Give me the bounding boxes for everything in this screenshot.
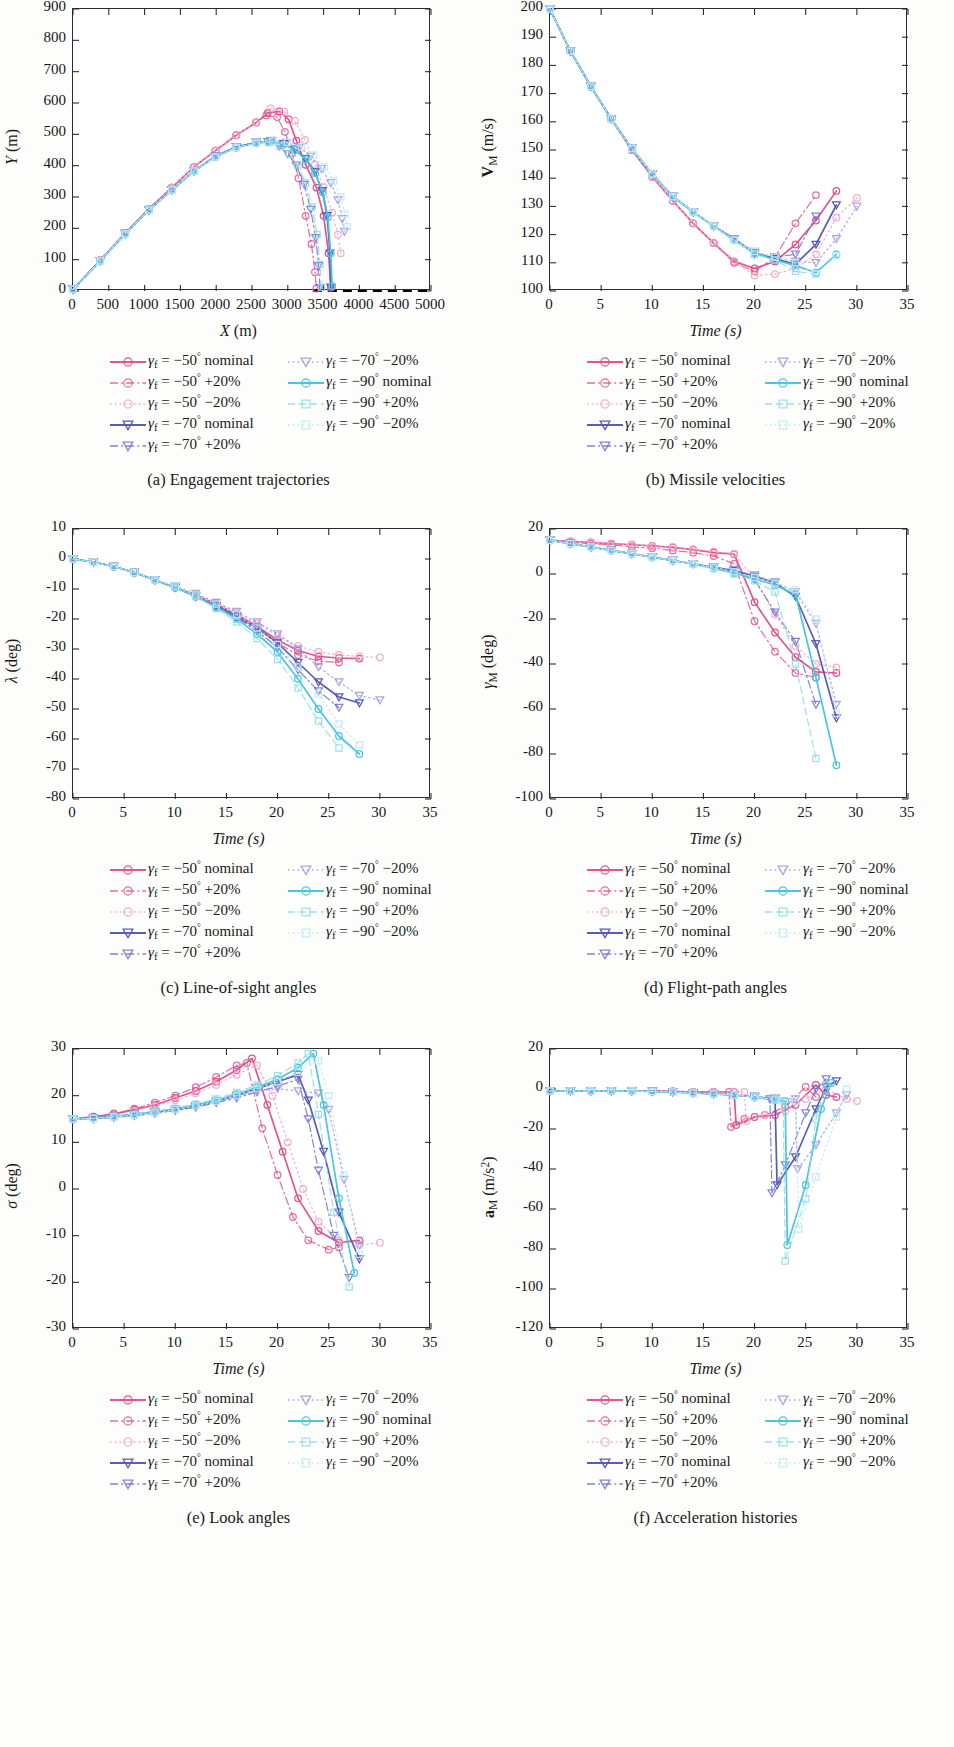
legend-marker-icon — [585, 1414, 625, 1428]
legend-item-g90_nom[interactable]: γf = −90° nominal — [763, 373, 909, 392]
legend-item-g70_m20[interactable]: γf = −70° −20% — [763, 1390, 909, 1409]
legend-item-g50_m20[interactable]: γf = −50° −20% — [108, 1432, 286, 1451]
x-tick-label: 30 — [353, 1334, 405, 1351]
legend-item-g90_p20[interactable]: γf = −90° +20% — [763, 1432, 909, 1451]
legend-item-g50_p20[interactable]: γf = −50° +20% — [585, 373, 763, 392]
y-tick-label: 160 — [495, 111, 543, 128]
legend-marker-icon — [108, 397, 148, 411]
legend-item-g50_nom[interactable]: γf = −50° nominal — [585, 1390, 763, 1409]
legend-item-g90_m20[interactable]: γf = −90° −20% — [286, 923, 432, 942]
legend-item-g90_m20[interactable]: γf = −90° −20% — [763, 1453, 909, 1472]
y-tick-label: -40 — [495, 1158, 543, 1175]
y-tick-label: 900 — [18, 0, 66, 15]
legend-item-g70_nom[interactable]: γf = −70° nominal — [108, 1453, 286, 1472]
legend-item-g90_p20[interactable]: γf = −90° +20% — [763, 394, 909, 413]
legend-marker-icon — [108, 1435, 148, 1449]
legend-item-g50_p20[interactable]: γf = −50° +20% — [585, 881, 763, 900]
y-tick-label: 10 — [18, 1131, 66, 1148]
legend-marker-icon — [585, 947, 625, 961]
legend-item-g90_nom[interactable]: γf = −90° nominal — [763, 1411, 909, 1430]
series-g50_nom — [70, 108, 334, 293]
legend-label: γf = −90° +20% — [326, 1432, 418, 1450]
legend-item-g90_p20[interactable]: γf = −90° +20% — [763, 902, 909, 921]
legend-item-g90_nom[interactable]: γf = −90° nominal — [763, 881, 909, 900]
legend-item-g90_nom[interactable]: γf = −90° nominal — [286, 1411, 432, 1430]
legend-item-g50_nom[interactable]: γf = −50° nominal — [585, 352, 763, 371]
y-tick-label: 200 — [18, 217, 66, 234]
legend-label: γf = −50° nominal — [148, 860, 254, 878]
legend-label: γf = −90° +20% — [803, 394, 895, 412]
legend-item-g70_m20[interactable]: γf = −70° −20% — [763, 352, 909, 371]
legend-item-g50_m20[interactable]: γf = −50° −20% — [585, 902, 763, 921]
legend-item-g50_p20[interactable]: γf = −50° +20% — [108, 1411, 286, 1430]
x-tick-label: 5 — [574, 804, 626, 821]
y-tick-label: -100 — [495, 788, 543, 805]
legend-item-g70_m20[interactable]: γf = −70° −20% — [286, 352, 432, 371]
legend-item-g70_m20[interactable]: γf = −70° −20% — [763, 860, 909, 879]
legend-item-g90_m20[interactable]: γf = −90° −20% — [763, 415, 909, 434]
legend-item-g70_m20[interactable]: γf = −70° −20% — [286, 1390, 432, 1409]
legend-item-g50_m20[interactable]: γf = −50° −20% — [108, 394, 286, 413]
legend-label: γf = −50° +20% — [148, 1411, 240, 1429]
legend-item-g70_nom[interactable]: γf = −70° nominal — [585, 923, 763, 942]
legend-marker-icon — [108, 905, 148, 919]
legend-item-g90_m20[interactable]: γf = −90° −20% — [763, 923, 909, 942]
legend-marker-icon — [763, 1435, 803, 1449]
legend-marker-icon — [108, 1477, 148, 1491]
legend-item-g50_m20[interactable]: γf = −50° −20% — [108, 902, 286, 921]
legend-item-g70_nom[interactable]: γf = −70° nominal — [585, 415, 763, 434]
legend-item-g70_p20[interactable]: γf = −70° +20% — [108, 944, 286, 963]
legend-item-g50_p20[interactable]: γf = −50° +20% — [585, 1411, 763, 1430]
legend-marker-icon — [108, 884, 148, 898]
legend-item-g50_m20[interactable]: γf = −50° −20% — [585, 1432, 763, 1451]
legend-item-g50_nom[interactable]: γf = −50° nominal — [108, 860, 286, 879]
legend-item-g90_p20[interactable]: γf = −90° +20% — [286, 1432, 432, 1451]
legend-item-g70_nom[interactable]: γf = −70° nominal — [108, 415, 286, 434]
legend-marker-icon — [286, 418, 326, 432]
legend-item-g70_p20[interactable]: γf = −70° +20% — [585, 944, 763, 963]
legend-label: γf = −50° −20% — [625, 902, 717, 920]
x-tick-label: 10 — [625, 804, 677, 821]
legend-marker-icon — [585, 1435, 625, 1449]
legend-item-g70_nom[interactable]: γf = −70° nominal — [108, 923, 286, 942]
legend-marker-icon — [286, 1435, 326, 1449]
legend-item-g70_p20[interactable]: γf = −70° +20% — [585, 1474, 763, 1493]
y-tick-label: 180 — [495, 54, 543, 71]
legend-marker-icon — [763, 1414, 803, 1428]
legend-label: γf = −70° −20% — [326, 352, 418, 370]
legend-item-g90_nom[interactable]: γf = −90° nominal — [286, 881, 432, 900]
legend-marker-icon — [763, 355, 803, 369]
legend-marker-icon — [286, 355, 326, 369]
legend-label: γf = −70° +20% — [148, 944, 240, 962]
legend-label: γf = −70° nominal — [625, 415, 731, 433]
y-tick-label: 0 — [18, 280, 66, 297]
series-g90_m20 — [547, 537, 840, 716]
legend-item-g90_nom[interactable]: γf = −90° nominal — [286, 373, 432, 392]
legend-item-g90_p20[interactable]: γf = −90° +20% — [286, 394, 432, 413]
y-tick-label: -20 — [18, 1271, 66, 1288]
plot-d: -100-80-60-40-2002005101520253035γM (deg… — [477, 520, 954, 858]
legend-label: γf = −90° +20% — [803, 902, 895, 920]
legend-item-g70_m20[interactable]: γf = −70° −20% — [286, 860, 432, 879]
legend-item-g50_p20[interactable]: γf = −50° +20% — [108, 373, 286, 392]
y-tick-label: 130 — [495, 195, 543, 212]
legend-item-g70_p20[interactable]: γf = −70° +20% — [108, 436, 286, 455]
legend-marker-icon — [286, 376, 326, 390]
legend-label: γf = −50° nominal — [148, 352, 254, 370]
legend-item-g90_m20[interactable]: γf = −90° −20% — [286, 415, 432, 434]
legend-item-g70_p20[interactable]: γf = −70° +20% — [585, 436, 763, 455]
legend-item-g50_p20[interactable]: γf = −50° +20% — [108, 881, 286, 900]
legend-item-g50_nom[interactable]: γf = −50° nominal — [108, 1390, 286, 1409]
legend-item-g70_p20[interactable]: γf = −70° +20% — [108, 1474, 286, 1493]
legend-item-g70_nom[interactable]: γf = −70° nominal — [585, 1453, 763, 1472]
legend-item-g50_nom[interactable]: γf = −50° nominal — [585, 860, 763, 879]
legend-item-g90_p20[interactable]: γf = −90° +20% — [286, 902, 432, 921]
legend-item-g50_nom[interactable]: γf = −50° nominal — [108, 352, 286, 371]
x-tick-label: 0 — [523, 296, 575, 313]
plot-f: -120-100-80-60-40-2002005101520253035aM … — [477, 1040, 954, 1388]
legend-item-g50_m20[interactable]: γf = −50° −20% — [585, 394, 763, 413]
x-tick-label: 0 — [46, 804, 98, 821]
x-axis-label: Time (s) — [0, 830, 477, 848]
plot-b: 1001101201301401501601701801902000510152… — [477, 0, 954, 350]
legend-item-g90_m20[interactable]: γf = −90° −20% — [286, 1453, 432, 1472]
